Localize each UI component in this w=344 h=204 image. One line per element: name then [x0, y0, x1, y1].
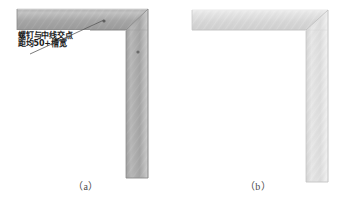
- screw-point-vertical-icon: [136, 50, 139, 53]
- screw-point-horizontal-icon: [102, 19, 105, 22]
- figure-b: （b）: [172, 0, 344, 204]
- figure-b-drawing: [172, 0, 344, 204]
- figure-b-horizontal-member: [192, 10, 328, 30]
- figure-sheet: 螺钉与中线交点 距均50+槽宽 （a）: [0, 0, 344, 204]
- annotation-line-2: 距均50+槽宽: [18, 40, 88, 48]
- annotation-callout: 螺钉与中线交点 距均50+槽宽: [14, 30, 90, 52]
- figure-a-horizontal-member: [17, 9, 148, 30]
- figure-a: 螺钉与中线交点 距均50+槽宽 （a）: [0, 0, 172, 204]
- figure-b-vertical-member: [306, 10, 328, 182]
- figure-a-vertical-member: [126, 9, 148, 178]
- figure-a-caption: （a）: [0, 178, 172, 193]
- figure-b-caption: （b）: [172, 178, 344, 193]
